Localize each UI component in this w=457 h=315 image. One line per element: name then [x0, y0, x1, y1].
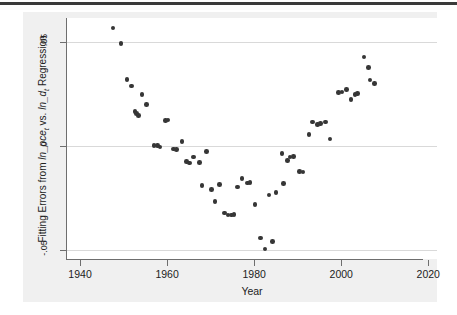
- plot-area: [67, 18, 437, 259]
- x-tick-mark: [428, 260, 429, 266]
- data-point: [119, 41, 124, 46]
- data-point: [174, 147, 179, 152]
- data-point: [204, 149, 209, 154]
- data-point: [355, 91, 360, 96]
- data-point: [291, 154, 296, 159]
- data-point: [270, 239, 275, 244]
- y-tick-mark: [60, 250, 66, 251]
- x-tick-mark: [341, 260, 342, 266]
- data-point: [318, 121, 323, 126]
- x-tick-label: 1960: [144, 268, 190, 280]
- data-point: [197, 160, 202, 165]
- data-point: [125, 77, 130, 82]
- data-point: [372, 81, 377, 86]
- data-point: [323, 120, 328, 125]
- data-point: [240, 176, 245, 181]
- x-tick-mark: [80, 260, 81, 266]
- data-point: [140, 92, 145, 97]
- y-axis-line: [66, 18, 67, 260]
- x-tick-mark: [167, 260, 168, 266]
- data-point: [310, 120, 315, 125]
- data-point: [213, 199, 218, 204]
- x-tick-mark: [254, 260, 255, 266]
- x-axis-title: Year: [67, 285, 437, 297]
- x-tick-label: 1980: [231, 268, 277, 280]
- x-axis-line: [66, 259, 423, 260]
- data-point: [235, 185, 240, 190]
- data-point: [248, 180, 253, 185]
- data-point: [258, 236, 263, 241]
- gridline-y: [67, 146, 437, 147]
- gridline-y: [67, 250, 437, 251]
- x-tick-label: 2000: [318, 268, 364, 280]
- data-point: [366, 65, 371, 70]
- y-axis-title: Fitting Errors from ln_pcet vs. ln_dt Re…: [37, 14, 51, 264]
- data-point: [191, 155, 196, 160]
- x-tick-label: 1940: [57, 268, 103, 280]
- data-point: [344, 87, 349, 92]
- data-point: [217, 182, 222, 187]
- data-point: [136, 113, 141, 118]
- data-point: [144, 102, 149, 107]
- x-tick-label: 2020: [405, 268, 451, 280]
- figure-container: .050-.05 19401960198020002020 Fitting Er…: [0, 0, 457, 315]
- top-horizontal-rule: [0, 2, 457, 5]
- y-tick-mark: [60, 42, 66, 43]
- data-point: [180, 139, 185, 144]
- data-point: [349, 97, 354, 102]
- data-point: [200, 183, 205, 188]
- y-tick-mark: [60, 146, 66, 147]
- data-point: [209, 187, 214, 192]
- data-point: [280, 151, 285, 156]
